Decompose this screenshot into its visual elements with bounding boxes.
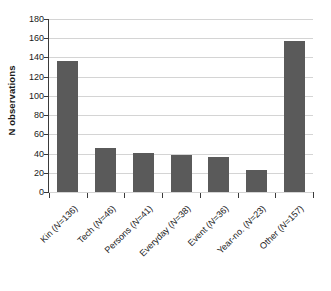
x-axis-tick-label: Year-no. (N=23) — [119, 203, 267, 291]
y-axis-tick-mark — [44, 77, 49, 78]
x-axis-tick-mark — [124, 193, 125, 198]
gridline — [49, 134, 313, 135]
bar-chart: N observations 020406080100120140160180 … — [0, 0, 331, 291]
y-axis-tick-label: 40 — [34, 149, 44, 158]
y-axis-tick-label: 80 — [34, 111, 44, 120]
x-axis-tick-label: Tech (N=46) — [0, 203, 117, 291]
x-axis-tick-mark — [49, 193, 50, 198]
x-axis-tick-label: Everyday (N=38) — [44, 203, 192, 291]
x-axis-tick-mark — [275, 193, 276, 198]
y-axis-tick-label: 180 — [29, 15, 44, 24]
y-axis-tick-label: 140 — [29, 53, 44, 62]
gridline — [49, 192, 313, 193]
x-axis-tick-mark — [87, 193, 88, 198]
bar — [171, 155, 192, 192]
gridline — [49, 57, 313, 58]
plot-area — [49, 19, 313, 192]
x-axis-tick-mark — [313, 193, 314, 198]
y-axis-tick-label: 100 — [29, 91, 44, 100]
x-axis-tick-mark — [238, 193, 239, 198]
x-axis-tick-label: Other (N=157) — [157, 203, 305, 291]
x-axis-tick-mark — [200, 193, 201, 198]
y-axis-tick-mark — [44, 134, 49, 135]
y-axis-tick-mark — [44, 173, 49, 174]
bar — [246, 170, 267, 192]
gridline — [49, 77, 313, 78]
y-axis-tick-labels: 020406080100120140160180 — [20, 0, 46, 291]
y-axis-tick-mark — [44, 115, 49, 116]
gridline — [49, 96, 313, 97]
bar — [95, 148, 116, 192]
bar — [57, 61, 78, 192]
y-axis-tick-mark — [44, 154, 49, 155]
y-axis-title-text: N observations — [6, 65, 17, 135]
y-axis-tick-mark — [44, 38, 49, 39]
gridline — [49, 154, 313, 155]
y-axis-title: N observations — [2, 0, 20, 200]
x-axis-tick-label: Event (N=36) — [82, 203, 230, 291]
y-axis-tick-mark — [44, 96, 49, 97]
bar — [208, 157, 229, 192]
gridline — [49, 19, 313, 20]
y-axis-tick-label: 60 — [34, 130, 44, 139]
y-axis-tick-mark — [44, 57, 49, 58]
y-axis-tick-label: 160 — [29, 34, 44, 43]
bar — [284, 41, 305, 192]
y-axis-tick-mark — [44, 19, 49, 20]
y-axis-tick-label: 20 — [34, 168, 44, 177]
x-axis-tick-mark — [162, 193, 163, 198]
gridline — [49, 38, 313, 39]
gridline — [49, 115, 313, 116]
bar — [133, 153, 154, 192]
y-axis-tick-label: 120 — [29, 72, 44, 81]
